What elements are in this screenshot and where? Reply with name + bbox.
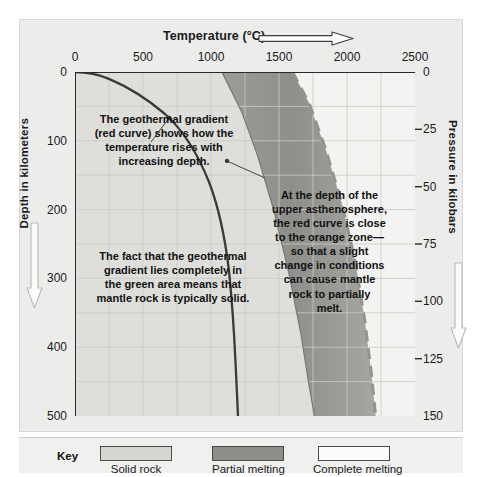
y-right-tick-25: 25: [423, 122, 436, 136]
x-tick-0: 0: [72, 50, 79, 64]
key-item-partial-melting: Partial melting: [212, 446, 284, 475]
asthenosphere-note: At the depth of the upper asthenosphere,…: [258, 188, 401, 315]
key-item-complete-melting: Complete melting: [318, 446, 395, 475]
y-axis-right-title: Pressure in kilobars: [447, 120, 459, 234]
key-label-complete-melting: Complete melting: [313, 463, 395, 475]
y-right-tick-150: 150: [423, 409, 443, 423]
x-tick-500: 500: [133, 50, 153, 64]
x-tick-1500: 1500: [266, 50, 293, 64]
y-left-tick-0: 0: [39, 65, 67, 79]
geothermal-gradient-note: The geothermal gradient (red curve) show…: [80, 112, 248, 168]
y-axis-left-title: Depth in kilometers: [18, 118, 30, 229]
x-tick-2500: 2500: [402, 50, 429, 64]
geothermal-gradient-figure: Temperature (°C) Depth in kilometers Pre…: [0, 0, 482, 477]
key-swatch-solid-rock: [100, 446, 172, 461]
y-right-tick-50: 50: [423, 180, 436, 194]
y-left-tick-200: 200: [35, 203, 67, 217]
key-title: Key: [57, 450, 78, 462]
key-label-partial-melting: Partial melting: [212, 463, 284, 475]
y-left-tick-400: 400: [35, 340, 67, 354]
y-right-tick-125: 125: [423, 352, 443, 366]
right-arrow-icon: [258, 31, 354, 46]
x-tick-1000: 1000: [198, 50, 225, 64]
down-arrow-icon-right: [450, 262, 467, 350]
y-left-tick-100: 100: [35, 134, 67, 148]
chart-title: Temperature (°C): [163, 29, 265, 43]
key-swatch-complete-melting: [318, 446, 390, 461]
y-left-tick-300: 300: [35, 271, 67, 285]
y-left-tick-500: 500: [35, 409, 67, 423]
y-right-tick-marks: [415, 72, 425, 416]
y-right-tick-75: 75: [423, 237, 436, 251]
x-tick-2000: 2000: [334, 50, 361, 64]
down-arrow-icon-left: [26, 222, 43, 310]
key-item-solid-rock: Solid rock: [100, 446, 172, 475]
key-label-solid-rock: Solid rock: [100, 463, 172, 475]
solid-mantle-note: The fact that the geothermal gradient li…: [78, 249, 268, 305]
y-right-tick-100: 100: [423, 294, 443, 308]
key-swatch-partial-melting: [212, 446, 284, 461]
